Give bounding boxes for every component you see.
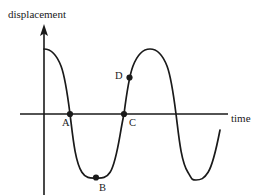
point-marker-C: [121, 111, 127, 117]
point-marker-B: [93, 174, 99, 180]
y-axis-label: displacement: [8, 9, 66, 20]
point-label-b: B: [99, 183, 106, 194]
point-marker-D: [126, 74, 132, 80]
x-axis-label: time: [231, 113, 251, 124]
point-label-a: A: [62, 118, 70, 129]
waveform-plot: [0, 0, 269, 195]
waveform-figure: displacement time A B C D: [0, 0, 269, 195]
point-label-c: C: [129, 118, 136, 129]
point-label-d: D: [115, 71, 123, 82]
